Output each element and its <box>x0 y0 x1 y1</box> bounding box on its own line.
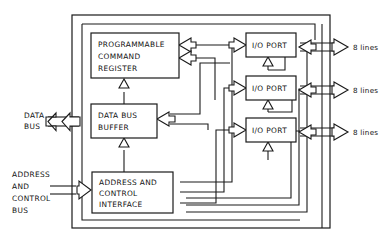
label-dbb-line2: BUFFER <box>98 123 129 132</box>
arrow-port2-bottom <box>263 100 273 109</box>
label-ac-bus-line2: AND <box>12 182 29 191</box>
arrow-port2-ext-in <box>299 83 316 97</box>
arrow-port1-ext-out <box>332 39 348 55</box>
arrow-into-pcr-upper <box>179 38 196 52</box>
label-io-port-3: I/O PORT <box>252 126 287 135</box>
arrow-data-bus-out <box>46 113 56 131</box>
label-ac-bus-line1: ADDRESS <box>12 170 50 179</box>
label-io-port-2: I/O PORT <box>252 84 287 93</box>
label-aci-line2: CONTROL <box>99 189 138 198</box>
diagram-canvas: PROGRAMMABLE COMMAND REGISTER DATA BUS B… <box>0 0 392 245</box>
label-pcr-line2: COMMAND <box>98 52 140 61</box>
label-pcr-line3: REGISTER <box>98 64 138 73</box>
wire-port2-feedback <box>186 89 300 205</box>
label-port3-8-lines: 8 lines <box>353 128 378 137</box>
block-diagram-figure: PROGRAMMABLE COMMAND REGISTER DATA BUS B… <box>0 0 392 245</box>
label-ac-bus-line3: CONTROL <box>12 194 51 203</box>
wire-buffer-bus-lower <box>170 124 208 130</box>
label-port1-8-lines: 8 lines <box>353 43 378 52</box>
arrow-port1-bottom <box>263 57 273 66</box>
label-dbb-line1: DATA BUS <box>98 111 137 120</box>
label-data-bus-line2: BUS <box>24 122 40 131</box>
label-data-bus-line1: DATA <box>24 111 44 120</box>
arrow-data-bus-in <box>62 113 80 131</box>
label-aci-line3: INTERFACE <box>99 200 143 209</box>
wire-pcr-in-lower <box>196 58 215 100</box>
arrow-buffer-to-pcr <box>119 79 129 88</box>
arrow-port3-ext-out <box>332 124 348 140</box>
label-pcr-line1: PROGRAMMABLE <box>98 40 165 49</box>
label-io-port-1: I/O PORT <box>252 41 287 50</box>
arrow-port2-ext-out <box>332 82 348 98</box>
block-data-bus-buffer[interactable] <box>91 104 157 138</box>
label-aci-line1: ADDRESS AND <box>99 178 157 187</box>
arrow-port3-ext-in <box>299 125 316 139</box>
arrow-port3-bottom <box>263 142 273 151</box>
arrow-interface-to-buffer <box>119 138 129 147</box>
label-ac-bus-line4: BUS <box>12 206 28 215</box>
label-port2-8-lines: 8 lines <box>353 86 378 95</box>
arrow-into-pcr-lower <box>179 51 196 65</box>
external-label-layer: DATA BUS ADDRESS AND CONTROL BUS 8 lines… <box>12 43 378 215</box>
arrow-acbus-into-interface <box>77 181 91 199</box>
wire-aci-to-port2 <box>180 88 240 192</box>
arrow-port1-ext-in <box>299 40 316 54</box>
